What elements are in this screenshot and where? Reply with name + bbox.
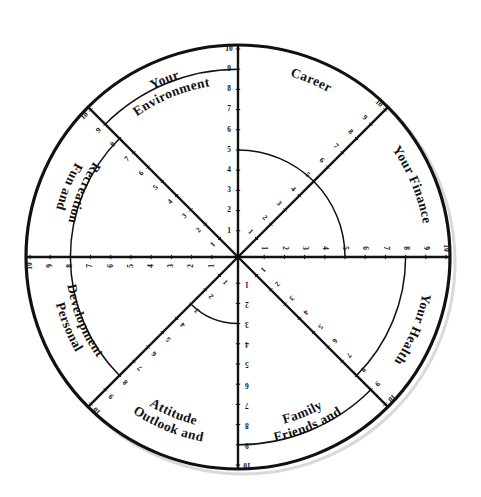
spokes-group <box>26 45 450 469</box>
axis-tick-label: 7 <box>245 401 249 410</box>
axis-tick-label: 3 <box>301 246 310 250</box>
axis-tick-label: 6 <box>245 380 249 389</box>
axis-tick-label: 5 <box>341 246 350 250</box>
axis-tick-label: 7 <box>382 246 391 250</box>
axis-tick-label: 2 <box>186 264 195 268</box>
axis-tick-label: 10 <box>225 44 233 53</box>
axis-tick-label: 10 <box>25 262 34 270</box>
axis-tick-label: 2 <box>227 205 231 214</box>
axis-tick-label: 9 <box>245 441 249 450</box>
axis-tick-label: 1 <box>227 226 231 235</box>
axis-tick-label: 3 <box>166 264 175 268</box>
wheel-of-life-diagram: 1234567891012345678910123456789101234567… <box>0 0 481 497</box>
axis-tick-label: 5 <box>227 145 231 154</box>
axis-tick-label: 10 <box>442 244 451 252</box>
axis-tick-label: 7 <box>85 264 94 268</box>
axis-tick-label: 1 <box>207 264 216 268</box>
axis-tick-label: 9 <box>45 264 54 268</box>
axis-tick-label: 9 <box>422 246 431 250</box>
axis-tick-label: 4 <box>321 246 330 250</box>
axis-tick-label: 2 <box>245 300 249 309</box>
axis-tick-label: 6 <box>227 125 231 134</box>
axis-tick-label: 8 <box>227 84 231 93</box>
axis-tick-label: 1 <box>260 246 269 250</box>
axis-tick-label: 2 <box>281 246 290 250</box>
axis-tick-label: 10 <box>243 461 251 470</box>
axis-tick-label: 5 <box>126 264 135 268</box>
axis-tick-label: 7 <box>227 104 231 113</box>
axis-tick-label: 8 <box>65 264 74 268</box>
axis-tick-label: 6 <box>106 264 115 268</box>
axis-tick-label: 6 <box>361 246 370 250</box>
axis-tick-label: 4 <box>245 340 249 349</box>
wheel-canvas: 1234567891012345678910123456789101234567… <box>0 0 481 497</box>
axis-tick-label: 4 <box>227 165 231 174</box>
axis-tick-label: 3 <box>227 185 231 194</box>
axis-tick-label: 9 <box>227 64 231 73</box>
axis-tick-label: 4 <box>146 264 155 268</box>
axis-tick-label: 8 <box>402 246 411 250</box>
axis-tick-label: 8 <box>245 421 249 430</box>
axis-tick-label: 1 <box>245 279 249 288</box>
axis-tick-label: 3 <box>245 320 249 329</box>
axis-tick-label: 5 <box>245 360 249 369</box>
